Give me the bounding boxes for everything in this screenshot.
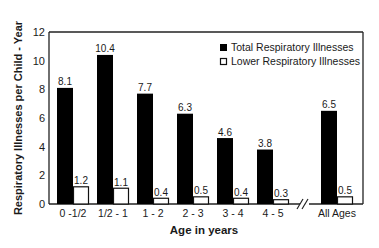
bar-group: 7.70.4 (137, 82, 169, 204)
bar-lower (234, 198, 249, 204)
x-tick-label: 3 - 4 (222, 207, 243, 219)
x-tick-label: 4 - 5 (262, 207, 283, 219)
bar-total (217, 138, 233, 204)
legend-label: Lower Respiratory Illnesses (231, 55, 360, 67)
y-axis: 024681012 (33, 26, 45, 210)
legend-swatch-outline-icon (221, 59, 227, 65)
bar-chart: 024681012 8.11.210.41.17.70.46.30.54.60.… (0, 0, 379, 248)
bar-total (257, 150, 273, 204)
bar-lower (194, 197, 209, 204)
bar-lower (74, 187, 89, 204)
legend-item: Lower Respiratory Illnesses (221, 55, 360, 67)
y-axis-label: Respiratory Illnesses per Child - Year (12, 20, 24, 215)
data-label-lower: 1.2 (74, 175, 88, 186)
data-label-lower: 0.5 (338, 185, 352, 196)
y-tick-label: 10 (33, 55, 45, 67)
x-tick-label: 1 - 2 (142, 207, 163, 219)
x-axis: 0 -1/21/2 - 11 - 22 - 33 - 44 - 5All Age… (60, 207, 356, 219)
y-tick-label: 0 (39, 198, 45, 210)
data-label-total: 6.5 (322, 99, 336, 110)
bar-total (57, 88, 73, 204)
bar-lower (114, 188, 129, 204)
bar-lower (338, 197, 353, 204)
legend-item: Total Respiratory Illnesses (220, 41, 354, 53)
y-tick-label: 4 (39, 141, 45, 153)
x-axis-label: Age in years (170, 224, 238, 236)
bar-lower (154, 198, 169, 204)
x-tick-label: All Ages (318, 207, 356, 219)
data-label-total: 10.4 (95, 43, 115, 54)
x-tick-label: 0 -1/2 (60, 207, 87, 219)
bar-group: 8.11.2 (57, 76, 89, 204)
data-label-total: 7.7 (138, 82, 152, 93)
bar-total (97, 55, 113, 204)
bars: 8.11.210.41.17.70.46.30.54.60.43.80.36.5… (57, 43, 353, 204)
bar-group: 3.80.3 (257, 138, 289, 204)
data-label-total: 6.3 (178, 102, 192, 113)
data-label-lower: 0.5 (194, 185, 208, 196)
y-tick-label: 8 (39, 83, 45, 95)
legend: Total Respiratory IllnessesLower Respira… (220, 41, 360, 67)
data-label-lower: 0.3 (274, 188, 288, 199)
y-tick-label: 12 (33, 26, 45, 38)
data-label-total: 3.8 (258, 138, 272, 149)
legend-label: Total Respiratory Illnesses (231, 41, 354, 53)
y-tick-label: 2 (39, 169, 45, 181)
data-label-lower: 1.1 (114, 177, 128, 188)
data-label-lower: 0.4 (154, 187, 168, 198)
y-tick-label: 6 (39, 112, 45, 124)
bar-group: 6.30.5 (177, 102, 209, 204)
bar-total (177, 114, 193, 204)
bar-total (137, 94, 153, 204)
x-tick-label: 2 - 3 (182, 207, 203, 219)
bar-group: 6.50.5 (321, 99, 353, 204)
bar-lower (274, 200, 289, 204)
legend-swatch-filled-icon (220, 44, 227, 51)
bar-group: 10.41.1 (95, 43, 128, 204)
data-label-lower: 0.4 (234, 187, 248, 198)
bar-total (321, 111, 337, 204)
data-label-total: 8.1 (58, 76, 72, 87)
bar-group: 4.60.4 (217, 127, 249, 204)
x-tick-label: 1/2 - 1 (98, 207, 128, 219)
data-label-total: 4.6 (218, 127, 232, 138)
